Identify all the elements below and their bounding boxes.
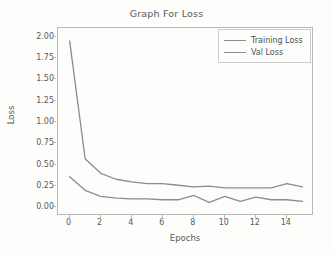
x-tick-label: 14 — [274, 218, 298, 227]
y-tick-label: 1.25 — [20, 95, 54, 104]
x-tick-mark — [286, 215, 287, 219]
x-tick-label: 6 — [150, 218, 174, 227]
y-tick-mark — [52, 78, 56, 79]
y-tick-label: 0.75 — [20, 138, 54, 147]
y-tick-label: 1.00 — [20, 117, 54, 126]
x-tick-mark — [131, 215, 132, 219]
y-tick-label: 0.00 — [20, 202, 54, 211]
x-tick-mark — [193, 215, 194, 219]
x-tick-label: 2 — [88, 218, 112, 227]
x-tick-mark — [255, 215, 256, 219]
y-tick-mark — [52, 121, 56, 122]
y-tick-mark — [52, 185, 56, 186]
loss-chart-figure: Graph For Loss Loss 0.000.250.500.751.00… — [0, 0, 333, 254]
legend-line-icon — [224, 52, 246, 53]
y-axis-tick-labels: 0.000.250.500.751.001.251.501.752.00 — [16, 27, 54, 215]
x-tick-label: 8 — [181, 218, 205, 227]
x-tick-mark — [162, 215, 163, 219]
x-tick-mark — [69, 215, 70, 219]
x-axis-label: Epochs — [57, 233, 313, 243]
y-tick-mark — [52, 142, 56, 143]
y-tick-mark — [52, 57, 56, 58]
x-tick-mark — [100, 215, 101, 219]
chart-title: Graph For Loss — [0, 8, 333, 19]
y-tick-label: 1.75 — [20, 52, 54, 61]
legend-label: Val Loss — [251, 48, 283, 57]
y-tick-label: 0.50 — [20, 159, 54, 168]
legend-item-val-loss: Val Loss — [222, 46, 307, 58]
y-tick-label: 2.00 — [20, 31, 54, 40]
series-line — [70, 177, 303, 203]
y-tick-mark — [52, 100, 56, 101]
x-tick-label: 4 — [119, 218, 143, 227]
x-tick-label: 12 — [243, 218, 267, 227]
x-tick-label: 0 — [57, 218, 81, 227]
x-tick-label: 10 — [212, 218, 236, 227]
legend-item-training-loss: Training Loss — [222, 34, 307, 46]
y-tick-mark — [52, 36, 56, 37]
x-tick-mark — [224, 215, 225, 219]
x-axis-tick-labels: 02468101214 — [57, 218, 313, 232]
legend-line-icon — [224, 40, 246, 41]
y-tick-label: 0.25 — [20, 181, 54, 190]
y-tick-mark — [52, 206, 56, 207]
chart-legend: Training Loss Val Loss — [218, 29, 311, 63]
y-axis-label: Loss — [6, 95, 16, 135]
legend-label: Training Loss — [251, 36, 303, 45]
y-tick-label: 1.50 — [20, 74, 54, 83]
y-tick-mark — [52, 164, 56, 165]
